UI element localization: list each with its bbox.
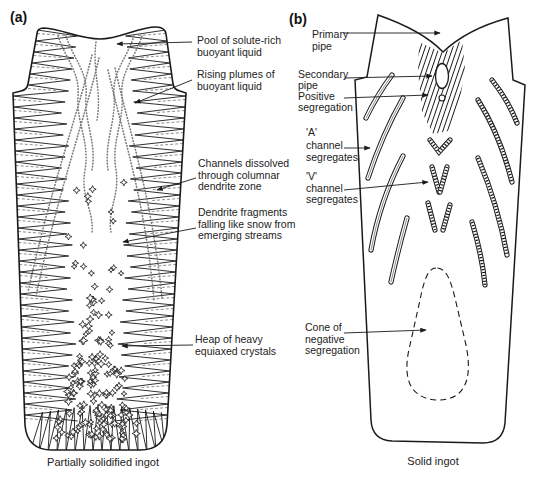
arrow-positive-segregation bbox=[344, 95, 428, 98]
panel-a-tag: (a) bbox=[10, 9, 27, 25]
label-secondary-pipe: Secondary pipe bbox=[298, 69, 348, 91]
label-primary-pipe: Primary pipe bbox=[312, 29, 348, 52]
label-channels-dissolved: Channels dissolved through columnar dend… bbox=[198, 158, 289, 193]
ingot-b bbox=[343, 15, 525, 443]
caption-partially-solidified-ingot: Partially solidified ingot bbox=[47, 456, 159, 468]
label-heap-of-equiaxed-crystals: Heap of heavy equiaxed crystals bbox=[195, 334, 276, 357]
label-a-channel-segregates: 'A' channel segregates bbox=[306, 126, 358, 164]
label-v-channel-segregates: 'V' channel segregates bbox=[306, 171, 358, 206]
panel-b-tag: (b) bbox=[289, 11, 307, 27]
buoyant-plumes-and-channels bbox=[28, 36, 162, 300]
arrow-channels bbox=[157, 178, 196, 190]
caption-solid-ingot: Solid ingot bbox=[407, 455, 458, 467]
ingot-a bbox=[13, 27, 196, 452]
label-dendrite-fragments: Dendrite fragments falling like snow fro… bbox=[198, 207, 295, 242]
label-positive-segregation: Positive segregation bbox=[298, 91, 353, 113]
ingot-segregation-diagram: (a) Pool of solute-rich buoyant liquid R… bbox=[0, 0, 534, 477]
label-cone-of-negative-segregation: Cone of negative segregation bbox=[305, 322, 360, 357]
secondary-pipe-small-void bbox=[439, 95, 445, 101]
cone-of-negative-segregation bbox=[407, 268, 468, 400]
secondary-pipe bbox=[436, 64, 449, 89]
label-pool-of-solute-rich-liquid: Pool of solute-rich buoyant liquid bbox=[197, 35, 281, 58]
arrow-pool bbox=[117, 42, 192, 44]
label-rising-plumes: Rising plumes of buoyant liquid bbox=[197, 69, 275, 92]
